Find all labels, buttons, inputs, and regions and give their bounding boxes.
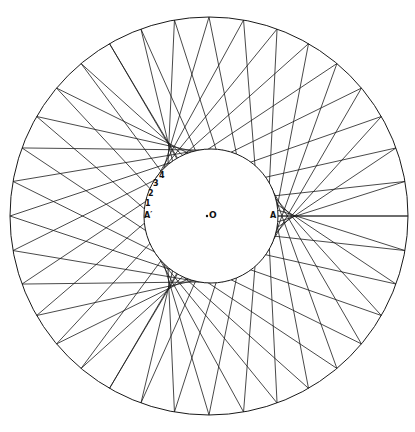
chord-line	[272, 188, 337, 369]
center-dot	[206, 215, 208, 217]
chord-line	[272, 64, 337, 245]
label-number-4: 4	[159, 172, 165, 180]
chord-line	[110, 274, 178, 388]
label-point-a: A	[270, 212, 276, 220]
label-number-1: 1	[145, 200, 151, 208]
chord-line	[57, 279, 189, 344]
envelope-diagram	[0, 0, 415, 432]
label-point-a-prime: A′	[144, 212, 152, 220]
chord-line	[81, 277, 183, 369]
label-number-3: 3	[153, 180, 159, 188]
label-center-o: O	[209, 211, 217, 220]
chord-line	[141, 29, 173, 161]
chord-line	[164, 17, 209, 169]
label-number-2: 2	[148, 190, 154, 198]
